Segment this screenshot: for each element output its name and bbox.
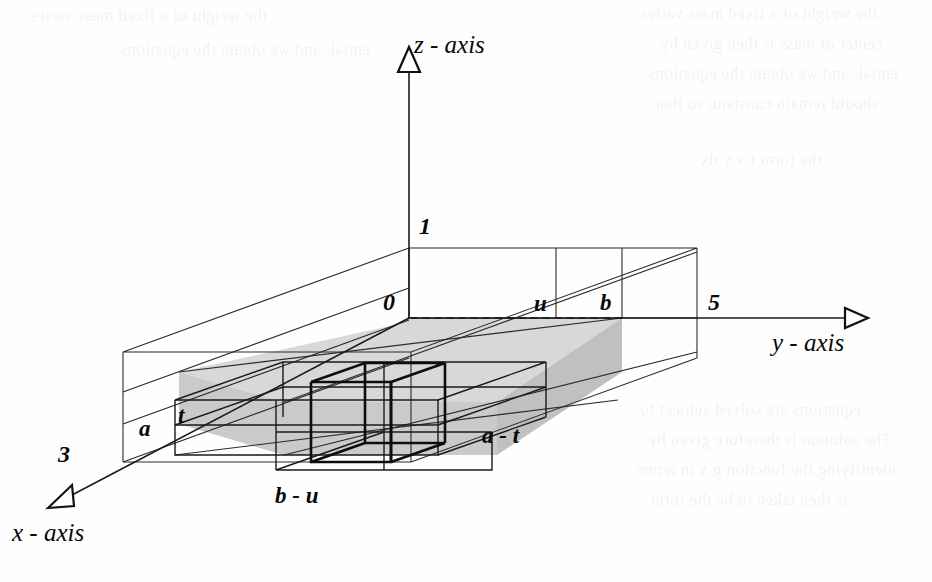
label-intercept-0: 0	[383, 290, 395, 314]
label-dimension-u: u	[534, 292, 547, 315]
label-dimension-b-minus-u: b - u	[275, 484, 318, 507]
box-diagram-svg: .s1 { fill:none; stroke:#2b2b2b; stroke-…	[0, 0, 932, 582]
label-dimension-a: a	[139, 417, 151, 440]
x-axis-label: x - axis	[12, 520, 84, 545]
y-axis-arrowhead-icon	[845, 308, 868, 328]
label-intercept-5: 3	[58, 442, 70, 466]
x-axis-arrowhead-icon	[48, 485, 74, 508]
label-dimension-b: b	[600, 291, 612, 314]
figure-page: the weight of a fixed mass varies center…	[0, 0, 932, 582]
label-dimension-a-minus-t: a - t	[482, 424, 519, 447]
label-dimension-t: t	[178, 404, 184, 427]
label-intercept-1: 1	[419, 214, 431, 238]
z-axis-label: z - axis	[414, 32, 485, 57]
y-axis-label: y - axis	[772, 330, 844, 355]
label-intercept-3: 5	[708, 290, 720, 314]
right-face-partitions	[409, 248, 697, 318]
